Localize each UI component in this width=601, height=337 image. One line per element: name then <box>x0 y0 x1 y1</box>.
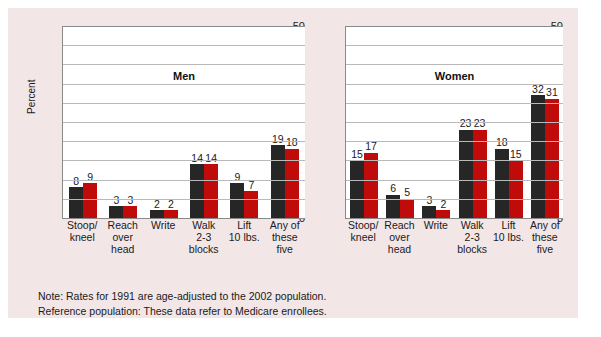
x-axis-label-line: over <box>381 231 417 243</box>
bar-1991: 3 <box>422 206 436 218</box>
bar-value-label: 2 <box>441 199 447 210</box>
y-axis-label: Percent <box>26 80 37 114</box>
x-axis-label-line: 2-3 <box>184 231 225 243</box>
bar-value-label: 31 <box>546 87 558 98</box>
x-axis-label-line: Lift <box>490 219 526 231</box>
bar-2002: 18 <box>285 149 299 218</box>
x-axis-label-line: these <box>527 231 563 243</box>
bar-value-label: 3 <box>114 195 120 206</box>
bar-value-label: 18 <box>496 137 508 148</box>
bar-2002: 15 <box>509 160 523 218</box>
gridline <box>63 84 305 85</box>
bar-value-label: 32 <box>532 84 544 95</box>
gridline <box>63 103 305 104</box>
x-axis-label-line: blocks <box>454 243 490 255</box>
bar-value-label: 6 <box>390 183 396 194</box>
x-axis-label-line: Stoop/ <box>345 219 381 231</box>
bar-value-label: 3 <box>128 195 134 206</box>
gridline <box>63 141 305 142</box>
x-axis-label: Write <box>418 219 454 255</box>
gridline <box>346 26 563 27</box>
x-axis-label-line: Any of <box>265 219 306 231</box>
x-axis-labels-men: Stoop/kneelReachoverheadWriteWalk2-3bloc… <box>62 219 305 255</box>
bar-value-label: 14 <box>205 153 217 164</box>
bar-value-label: 14 <box>191 153 203 164</box>
x-axis-label-line: head <box>103 243 144 255</box>
bar-value-label: 2 <box>168 199 174 210</box>
x-axis-label: Reachoverhead <box>381 219 417 255</box>
note-line-2: Reference population: These data refer t… <box>38 304 327 319</box>
x-axis-label-line: five <box>527 243 563 255</box>
x-axis-label-line: Lift <box>224 219 265 231</box>
bar-1991: 14 <box>190 164 204 218</box>
chart-notes: Note: Rates for 1991 are age-adjusted to… <box>38 289 327 319</box>
bar-2002: 3 <box>123 206 137 218</box>
gridline <box>63 180 305 181</box>
bar-value-label: 19 <box>272 134 284 145</box>
gridline <box>63 26 305 27</box>
x-axis-label: Any ofthesefive <box>265 219 306 255</box>
gridline <box>346 160 563 161</box>
bar-2002: 2 <box>164 210 178 218</box>
x-axis-label-line: head <box>381 243 417 255</box>
bar-1991: 23 <box>459 130 473 218</box>
x-axis-label-line: Walk <box>454 219 490 231</box>
x-axis-label: Walk2-3blocks <box>184 219 225 255</box>
bar-value-label: 7 <box>249 180 255 191</box>
x-axis-label-line: Reach <box>103 219 144 231</box>
gridline <box>63 160 305 161</box>
x-axis-label: Any ofthesefive <box>527 219 563 255</box>
chart-panel-men: Percent 50454035302520151050 Men 8933221… <box>30 26 305 276</box>
x-axis-label-line: 10 lbs. <box>490 231 526 243</box>
x-axis-label-line: 10 lbs. <box>224 231 265 243</box>
gridline <box>63 64 305 65</box>
x-axis-label-line: these <box>265 231 306 243</box>
gridline <box>63 45 305 46</box>
x-axis-label-line: over <box>103 231 144 243</box>
bar-1991: 18 <box>495 149 509 218</box>
bar-2002: 2 <box>436 210 450 218</box>
x-axis-label: Write <box>143 219 184 255</box>
bar-value-label: 8 <box>73 176 79 187</box>
bar-value-label: 2 <box>154 199 160 210</box>
x-axis-label-line: Any of <box>527 219 563 231</box>
bar-2002: 5 <box>400 199 414 218</box>
bar-2002: 14 <box>204 164 218 218</box>
x-axis-label-line: Reach <box>381 219 417 231</box>
bar-2002: 9 <box>83 183 97 218</box>
x-axis-label-line: Write <box>143 219 184 231</box>
gridline <box>346 122 563 123</box>
gridline <box>346 45 563 46</box>
gridline <box>346 103 563 104</box>
gridline <box>63 199 305 200</box>
bar-1991: 15 <box>350 160 364 218</box>
bar-value-label: 23 <box>460 118 472 129</box>
bar-2002: 7 <box>244 191 258 218</box>
plot-area-men: Men 8933221414971918 <box>62 26 305 219</box>
bar-2002: 23 <box>473 130 487 218</box>
x-axis-label-line: kneel <box>345 231 381 243</box>
bar-value-label: 15 <box>351 149 363 160</box>
x-axis-label: Lift10 lbs. <box>490 219 526 255</box>
x-axis-label-line: 2-3 <box>454 231 490 243</box>
figure-panel: 1991 2002 Percent 50454035302520151050 M… <box>8 8 578 318</box>
gridline <box>346 199 563 200</box>
x-axis-label-line: Write <box>418 219 454 231</box>
bar-value-label: 5 <box>404 187 410 198</box>
bar-value-label: 3 <box>427 195 433 206</box>
gridline <box>63 122 305 123</box>
plot-area-women: Women 15176532232318153231 <box>345 26 563 219</box>
bar-1991: 8 <box>69 187 83 218</box>
bar-value-label: 15 <box>510 149 522 160</box>
gridline <box>346 180 563 181</box>
bar-1991: 2 <box>150 210 164 218</box>
bar-2002: 31 <box>545 99 559 218</box>
x-axis-label-line: five <box>265 243 306 255</box>
bar-value-label: 17 <box>365 141 377 152</box>
x-axis-labels-women: Stoop/kneelReachoverheadWriteWalk2-3bloc… <box>345 219 563 255</box>
x-axis-label: Reachoverhead <box>103 219 144 255</box>
x-axis-label: Stoop/kneel <box>345 219 381 255</box>
bar-1991: 3 <box>109 206 123 218</box>
chart-panel-women: 50454035302520151050 Women 1517653223231… <box>313 26 563 276</box>
bar-value-label: 23 <box>474 118 486 129</box>
